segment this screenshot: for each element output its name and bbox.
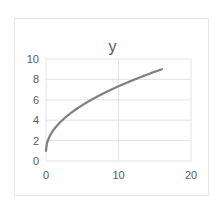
svg-text:2: 2 xyxy=(33,135,39,147)
svg-text:8: 8 xyxy=(33,73,39,85)
svg-text:0: 0 xyxy=(33,155,39,167)
plot: 0246810 01020 xyxy=(0,0,215,206)
svg-text:6: 6 xyxy=(33,94,39,106)
gridlines xyxy=(46,59,191,161)
svg-text:20: 20 xyxy=(185,169,197,181)
svg-text:4: 4 xyxy=(33,114,39,126)
y-axis-ticks: 0246810 xyxy=(27,53,39,167)
x-axis-ticks: 01020 xyxy=(43,169,197,181)
svg-text:10: 10 xyxy=(112,169,124,181)
svg-text:10: 10 xyxy=(27,53,39,65)
series-line xyxy=(46,69,162,151)
svg-text:0: 0 xyxy=(43,169,49,181)
